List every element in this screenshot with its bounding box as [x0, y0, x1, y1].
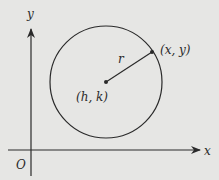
center-point: [104, 80, 108, 84]
radius-label: r: [118, 52, 125, 66]
center-label: (h, k): [76, 90, 108, 104]
origin-label: O: [16, 158, 26, 172]
x-axis-label: x: [204, 144, 211, 158]
point-label: (x, y): [160, 43, 191, 57]
circle-diagram: y x O r (x, y) (h, k): [0, 0, 219, 180]
circumference-point: [150, 50, 154, 54]
y-axis-label: y: [26, 7, 34, 21]
radius-line: [106, 52, 152, 82]
